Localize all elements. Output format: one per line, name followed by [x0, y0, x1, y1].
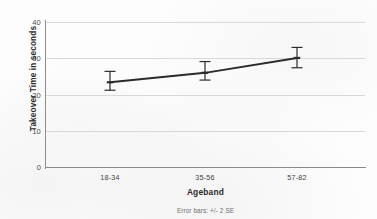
x-tick-label-18-34: 18-34: [100, 173, 119, 182]
chart-footnote: Error bars: +/- 2 SE: [46, 207, 365, 214]
x-axis-title: Ageband: [46, 187, 365, 197]
x-tick-label-35-56: 35-56: [195, 173, 214, 182]
y-tick-label-0: 0: [37, 163, 41, 172]
x-axis-line: [45, 167, 366, 168]
gridline-10: [46, 131, 365, 132]
gridline-40: [46, 22, 365, 23]
y-axis-title-holder: Takeover Time in seconds: [8, 24, 22, 169]
y-axis-title: Takeover Time in seconds: [29, 4, 38, 154]
gridline-20: [46, 95, 365, 96]
y-axis-line: [45, 20, 46, 169]
plot-area: [46, 22, 365, 167]
gridline-30: [46, 58, 365, 59]
x-tick-label-57-82: 57-82: [287, 173, 306, 182]
chart-figure: 40 30 20 10 0 18-34 35-56 57-82 Takeover…: [0, 0, 377, 219]
